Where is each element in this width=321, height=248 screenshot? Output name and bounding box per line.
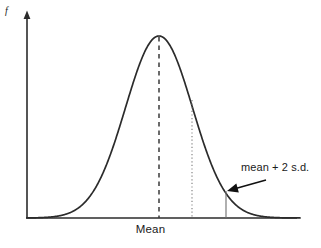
- annotation-arrow-shaft: [236, 180, 266, 189]
- annotation-arrow: [227, 180, 266, 192]
- annotation-arrow-head-icon: [227, 184, 239, 193]
- y-axis: [24, 11, 31, 219]
- y-axis-arrowhead-icon: [24, 11, 31, 20]
- figure-canvas: [0, 0, 321, 248]
- normal-curve: [27, 36, 300, 218]
- x-axis-mean-label: Mean: [0, 224, 301, 236]
- normal-distribution-figure: f Mean mean + 2 s.d.: [0, 0, 321, 248]
- mean-plus-two-sd-annotation-label: mean + 2 s.d.: [241, 162, 309, 173]
- y-axis-label: f: [5, 6, 8, 16]
